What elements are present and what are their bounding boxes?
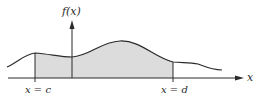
x-axis-label: x xyxy=(247,71,254,84)
y-axis-label: f(x) xyxy=(61,5,81,18)
area-under-curve-diagram: f(x) x x = c x = d xyxy=(0,0,260,106)
x-axis-arrow-icon xyxy=(235,76,244,81)
shaded-area-region xyxy=(35,41,173,78)
right-bound-label: x = d xyxy=(161,84,188,95)
y-axis-arrow-icon xyxy=(70,20,75,29)
left-bound-label: x = c xyxy=(25,84,51,95)
